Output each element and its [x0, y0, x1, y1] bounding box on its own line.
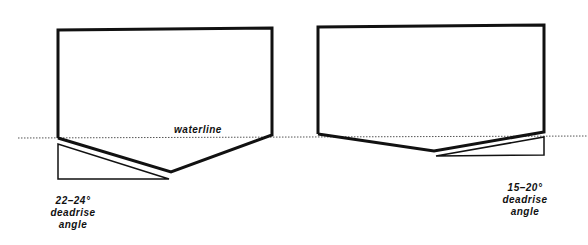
- right-angle-value: 15–20°: [500, 182, 550, 194]
- left-deadrise-triangle: [58, 144, 169, 179]
- left-angle-line3: angle: [48, 219, 98, 231]
- right-angle-line2: deadrise: [500, 194, 550, 206]
- left-angle-line2: deadrise: [48, 207, 98, 219]
- left-angle-label: 22–24° deadrise angle: [48, 195, 98, 231]
- left-angle-value: 22–24°: [48, 195, 98, 207]
- right-hull-outline: [318, 25, 544, 151]
- left-hull-outline: [58, 28, 272, 172]
- right-angle-label: 15–20° deadrise angle: [500, 182, 550, 218]
- waterline-label: waterline: [148, 124, 248, 136]
- right-angle-line3: angle: [500, 206, 550, 218]
